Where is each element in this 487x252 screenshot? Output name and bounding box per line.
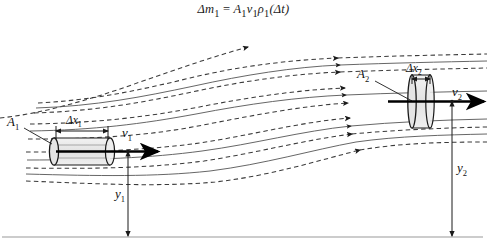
delta-x-2-symbol: Δx bbox=[406, 62, 418, 74]
streamline bbox=[34, 72, 340, 113]
delta-x-2-subscript: 2 bbox=[418, 68, 422, 77]
area-1-subscript: 1 bbox=[15, 122, 19, 132]
area-2-leader bbox=[375, 81, 412, 101]
height-1-dimension bbox=[126, 150, 129, 236]
height-2-subscript: 2 bbox=[463, 168, 467, 178]
delta-x-2-label: Δx2 bbox=[406, 62, 422, 77]
streamline bbox=[360, 142, 487, 150]
figure-canvas: Δm1 = A1v1ρ1(Δt) bbox=[0, 0, 487, 252]
velocity-1-subscript: 1 bbox=[128, 133, 132, 143]
streamline bbox=[38, 58, 338, 103]
area-1-symbol: A bbox=[7, 114, 15, 129]
delta-x-1-label: Δx1 bbox=[66, 114, 82, 129]
delta-x-1-subscript: 1 bbox=[78, 120, 82, 129]
area-2-label: A2 bbox=[357, 66, 369, 84]
streamline-solid bbox=[36, 65, 340, 108]
velocity-2-label: v2 bbox=[452, 84, 462, 102]
delta-x-1-symbol: Δx bbox=[66, 114, 78, 126]
area-2-symbol: A bbox=[357, 66, 365, 81]
streamline-solid bbox=[356, 134, 487, 142]
area-2-subscript: 2 bbox=[365, 74, 369, 84]
height-1-label: y1 bbox=[115, 186, 125, 204]
velocity-2-subscript: 2 bbox=[458, 92, 462, 102]
velocity-1-label: v1 bbox=[122, 125, 132, 143]
area-1-label: A1 bbox=[7, 114, 19, 132]
height-2-label: y2 bbox=[457, 160, 467, 178]
streamline bbox=[338, 54, 487, 58]
height-1-subscript: 1 bbox=[121, 194, 125, 204]
